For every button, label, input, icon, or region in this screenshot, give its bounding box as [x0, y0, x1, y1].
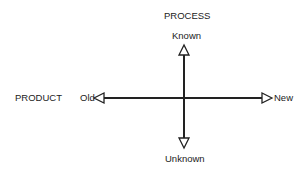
arrowhead-right-icon: [262, 93, 272, 103]
arrowhead-up-icon: [179, 45, 189, 55]
axes-svg: [0, 0, 306, 173]
arrowhead-down-icon: [179, 138, 189, 148]
arrowhead-left-icon: [94, 93, 104, 103]
